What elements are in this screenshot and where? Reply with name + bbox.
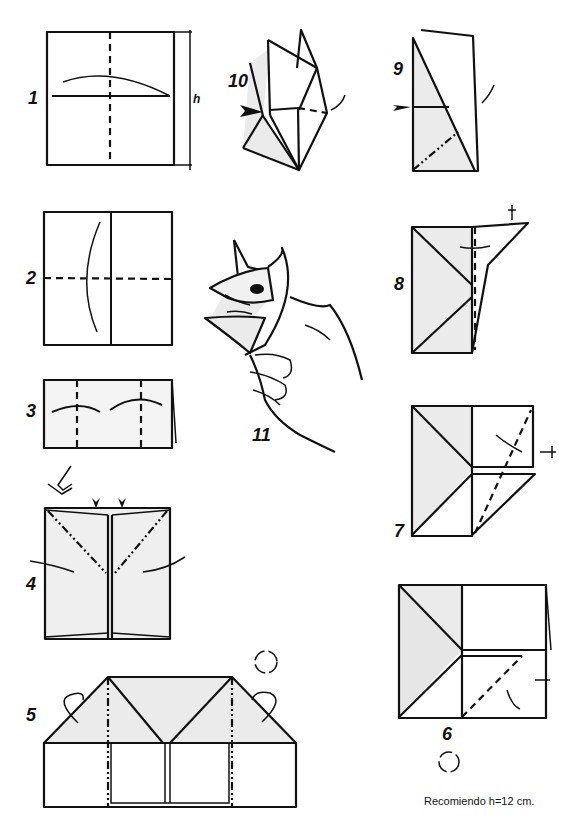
step-9: 9 bbox=[393, 30, 494, 171]
step-number: 5 bbox=[26, 705, 37, 725]
step-number: 11 bbox=[252, 425, 271, 445]
step-4: 4 bbox=[25, 466, 185, 639]
size-recommendation-note: Recomiendo h=12 cm. bbox=[424, 795, 534, 807]
step-number: 8 bbox=[394, 274, 404, 294]
step-number: 4 bbox=[25, 574, 36, 594]
step-number: 7 bbox=[394, 521, 405, 541]
step-number: 10 bbox=[228, 71, 248, 91]
step-8: 8 bbox=[394, 205, 528, 353]
origami-diagram: 1 h 2 3 4 bbox=[0, 0, 582, 829]
step-7: 7 bbox=[394, 406, 556, 541]
step-3: 3 bbox=[26, 380, 176, 448]
dimension-label: h bbox=[193, 92, 200, 106]
step-11: 11 bbox=[205, 240, 362, 452]
step-6: 6 bbox=[399, 585, 551, 772]
step-number: 1 bbox=[28, 88, 38, 108]
step-10: 10 bbox=[228, 30, 345, 170]
step-number: 6 bbox=[442, 724, 453, 744]
step-2: 2 bbox=[25, 212, 172, 345]
step-1: 1 h bbox=[28, 30, 200, 170]
step-number: 2 bbox=[25, 268, 36, 288]
step-number: 9 bbox=[393, 59, 403, 79]
step-number: 3 bbox=[26, 401, 36, 421]
step-5: 5 bbox=[26, 651, 296, 807]
